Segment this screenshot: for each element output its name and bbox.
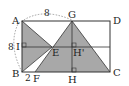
measure-BF: 2 bbox=[25, 73, 31, 83]
label-G: G bbox=[68, 9, 76, 20]
label-F: F bbox=[33, 73, 40, 84]
label-E: E bbox=[52, 47, 59, 58]
label-I: I bbox=[16, 41, 20, 52]
measure-AB: 8 bbox=[8, 42, 14, 52]
label-Hprime: H' bbox=[73, 47, 84, 58]
measure-AG: 8 bbox=[44, 8, 50, 18]
label-B: B bbox=[12, 68, 19, 79]
label-A: A bbox=[11, 15, 20, 26]
label-D: D bbox=[113, 15, 121, 26]
geometry-figure: A B C D G H I E H' F 8 8 2 bbox=[0, 0, 129, 86]
label-C: C bbox=[113, 67, 121, 78]
label-H: H bbox=[68, 74, 77, 85]
